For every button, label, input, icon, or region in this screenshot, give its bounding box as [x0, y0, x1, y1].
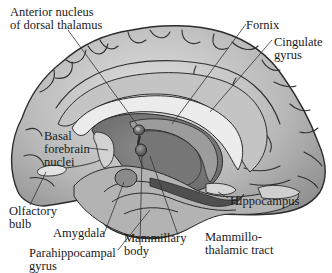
mammillary-body-structure: [136, 144, 147, 156]
label-fornix: Fornix: [246, 19, 279, 32]
label-basal-forebrain-nuclei: Basal forebrain nuclei: [44, 130, 90, 169]
label-mammillary-body: Mammillary body: [124, 232, 187, 258]
amygdala-structure: [115, 169, 137, 187]
label-anterior-nucleus: Anterior nucleus of dorsal thalamus: [10, 6, 102, 32]
label-mammillothalamic-tract: Mammillo- thalamic tract: [205, 231, 273, 257]
label-amygdala: Amygdala: [53, 227, 105, 240]
label-parahippocampal-gyrus: Parahippocampal gyrus: [29, 247, 116, 273]
label-olfactory-bulb: Olfactory bulb: [9, 205, 57, 231]
anterior-nucleus-highlight: [136, 127, 140, 131]
label-hippocampus: Hippocampus: [230, 195, 299, 208]
limbic-system-diagram: Anterior nucleus of dorsal thalamus Forn…: [0, 0, 332, 273]
label-cingulate-gyrus: Cingulate gyrus: [274, 36, 323, 62]
